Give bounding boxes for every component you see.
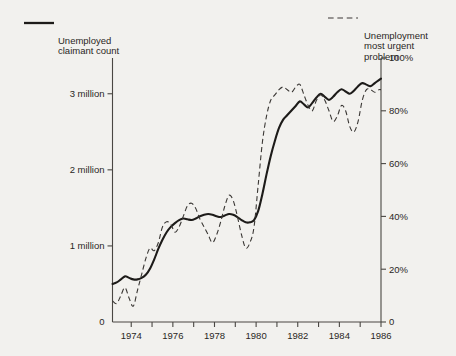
plot-canvas: 01 million2 million3 million020%40%60%80… (0, 0, 456, 356)
right-axis-tick-label: 40% (389, 211, 409, 222)
right-axis-tick-label: 60% (389, 158, 409, 169)
right-axis-tick-label: 80% (389, 105, 409, 116)
left-axis-tick-label: 0 (99, 316, 104, 327)
left-axis-tick-label: 3 million (70, 88, 105, 99)
right-axis-tick-label: 20% (389, 264, 409, 275)
left-axis-tick-label: 1 million (70, 240, 105, 251)
series-group (113, 79, 382, 307)
x-axis-tick-label: 1984 (329, 330, 350, 341)
x-axis-tick-label: 1982 (287, 330, 308, 341)
right-axis-tick-label: 0 (389, 316, 394, 327)
axes-group: 01 million2 million3 million020%40%60%80… (70, 52, 414, 341)
x-axis-tick-label: 1980 (246, 330, 267, 341)
series-line-claimant-count (113, 79, 382, 284)
series-line-most-urgent-problem (113, 84, 382, 306)
x-axis-tick-label: 1986 (370, 330, 391, 341)
x-axis-tick-label: 1974 (121, 330, 142, 341)
right-axis-tick-label: 100% (389, 52, 414, 63)
left-axis-tick-label: 2 million (70, 164, 105, 175)
x-axis-tick-label: 1976 (162, 330, 183, 341)
chart-figure: Unemployed claimant count Unemployment m… (0, 0, 456, 356)
x-axis-tick-label: 1978 (204, 330, 225, 341)
